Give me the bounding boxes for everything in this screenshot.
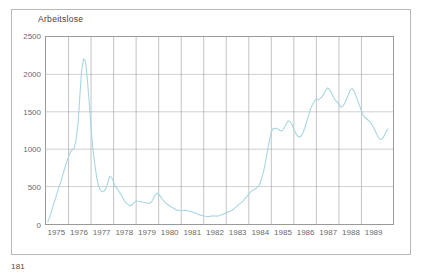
plot-area — [45, 36, 394, 225]
x-tick-label: 1989 — [365, 228, 383, 237]
x-tick-label: 1980 — [161, 228, 179, 237]
x-tick-label: 1975 — [47, 228, 65, 237]
plot-area-wrapper — [45, 36, 394, 225]
y-tick-label: 2500 — [23, 32, 41, 41]
page-number: 181 — [11, 262, 25, 271]
x-tick-label: 1981 — [183, 228, 201, 237]
x-tick-label: 1987 — [319, 228, 337, 237]
figure-page: Arbeitslose 05001000150020002500 1975197… — [0, 0, 424, 278]
y-tick-label: 500 — [28, 183, 41, 192]
x-tick-label: 1983 — [229, 228, 247, 237]
y-tick-label: 1500 — [23, 107, 41, 116]
x-tick-label: 1985 — [274, 228, 292, 237]
x-tick-label: 1986 — [297, 228, 315, 237]
series-path-arbeitslose — [48, 59, 388, 222]
x-tick-label: 1976 — [70, 228, 88, 237]
chart-line-series — [46, 37, 393, 224]
y-axis-tick-labels: 05001000150020002500 — [8, 36, 41, 225]
y-tick-label: 1000 — [23, 145, 41, 154]
y-tick-label: 0 — [37, 221, 41, 230]
x-axis-tick-labels: 1975197619771978197919801981198219831984… — [45, 228, 394, 242]
y-tick-label: 2000 — [23, 69, 41, 78]
x-tick-label: 1977 — [93, 228, 111, 237]
x-tick-label: 1988 — [342, 228, 360, 237]
x-tick-label: 1979 — [138, 228, 156, 237]
chart-title: Arbeitslose — [38, 14, 83, 24]
x-tick-label: 1978 — [115, 228, 133, 237]
x-tick-label: 1982 — [206, 228, 224, 237]
x-tick-label: 1984 — [251, 228, 269, 237]
